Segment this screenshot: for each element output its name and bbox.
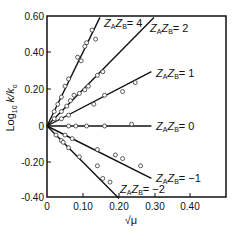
data-point xyxy=(70,137,74,141)
y-tick-label: 0.20 xyxy=(25,84,45,95)
y-tick-label: -0.20 xyxy=(21,157,44,168)
data-point xyxy=(85,41,89,45)
data-point xyxy=(101,70,105,74)
svg-text:Log10 k/ko: Log10 k/ko xyxy=(4,84,18,131)
x-axis: 0 0.10 0.20 0.30 0.40 √μ xyxy=(44,193,200,226)
data-point xyxy=(67,77,71,81)
x-axis-title: √μ xyxy=(125,214,137,226)
x-tick-label: 0.30 xyxy=(145,201,165,212)
data-point xyxy=(59,110,63,114)
data-point xyxy=(90,28,94,32)
data-point xyxy=(52,117,56,121)
y-axis-title: Log10 k/ko xyxy=(4,84,18,131)
x-tick-label: 0.20 xyxy=(109,201,129,212)
x-tick-label: 0.10 xyxy=(73,201,93,212)
data-point xyxy=(103,124,107,128)
series-label-2: ZAZB= 2 xyxy=(149,22,188,35)
data-point xyxy=(59,95,63,99)
data-point xyxy=(77,91,81,95)
data-point xyxy=(76,55,80,59)
series-5 xyxy=(47,126,119,198)
y-tick-label: -0.40 xyxy=(21,192,44,203)
y-tick-label: 0 xyxy=(38,121,44,132)
series-0 xyxy=(47,17,100,126)
y-tick-label: 0.40 xyxy=(25,47,45,58)
chart: 0.60 0.40 0.20 0 -0.20 -0.40 Log10 k/ko … xyxy=(0,0,233,231)
data-point xyxy=(108,180,112,184)
series-label-0: ZAZB= 0 xyxy=(155,120,194,133)
data-point xyxy=(56,102,60,106)
x-tick-label: 0 xyxy=(44,201,50,212)
data-point xyxy=(101,176,105,180)
data-point xyxy=(94,37,98,41)
data-point xyxy=(67,113,71,117)
data-point xyxy=(121,157,125,161)
data-point xyxy=(52,110,56,114)
data-point xyxy=(63,133,67,137)
plot-frame xyxy=(47,16,226,197)
data-point xyxy=(59,117,63,121)
data-point xyxy=(67,124,71,128)
data-point xyxy=(103,93,107,97)
series-3 xyxy=(47,122,151,128)
series-4 xyxy=(47,126,151,178)
data-point xyxy=(113,153,117,157)
series-label-neg2: ZAZB= −2 xyxy=(119,183,165,196)
data-point xyxy=(95,164,99,168)
series-label-1: ZAZB= 1 xyxy=(155,67,194,80)
data-point xyxy=(68,99,72,103)
data-point xyxy=(54,133,58,137)
series-label-4: ZAZB= 4 xyxy=(103,17,142,30)
data-point xyxy=(121,90,125,94)
data-point xyxy=(65,104,69,108)
y-tick-label: 0.60 xyxy=(25,11,45,22)
data-point xyxy=(92,102,96,106)
data-point xyxy=(86,84,90,88)
data-point xyxy=(79,59,83,63)
x-tick-label: 0.40 xyxy=(180,201,200,212)
series-1 xyxy=(47,17,154,126)
fit-line xyxy=(47,126,151,178)
data-point xyxy=(83,88,87,92)
series-layer xyxy=(47,17,154,198)
data-point xyxy=(67,146,71,150)
data-point xyxy=(72,93,76,97)
data-point xyxy=(74,124,78,128)
series-labels: ZAZB= 4 ZAZB= 2 ZAZB= 1 ZAZB= 0 ZAZB= −1… xyxy=(103,17,201,196)
data-point xyxy=(133,81,137,85)
data-point xyxy=(77,155,81,159)
data-point xyxy=(130,122,134,126)
data-point xyxy=(63,84,67,88)
data-point xyxy=(85,124,89,128)
data-point xyxy=(95,148,99,152)
data-point xyxy=(139,164,143,168)
data-point xyxy=(95,73,99,77)
data-point xyxy=(61,140,65,144)
fit-line xyxy=(47,126,119,198)
